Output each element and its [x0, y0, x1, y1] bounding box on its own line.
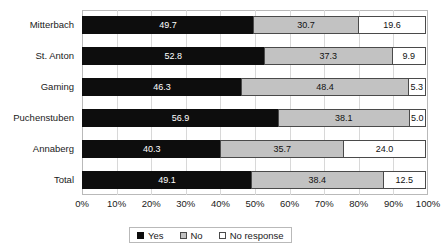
bar-segment-yes: 49.7	[82, 16, 254, 34]
bar-segment-no: 37.3	[264, 47, 393, 65]
bar-row: 56.938.15.0	[82, 109, 428, 127]
x-tick-label: 70%	[315, 198, 334, 210]
bar-row: 49.730.719.6	[82, 16, 428, 34]
bar-segment-yes: 56.9	[82, 109, 279, 127]
bar-segment-no-response: 5.3	[408, 78, 426, 96]
bar-segment-no: 38.4	[251, 171, 384, 189]
category-label-gaming: Gaming	[0, 78, 74, 96]
bar-segment-no-response: 19.6	[358, 16, 426, 34]
bar-segment-yes: 49.1	[82, 171, 252, 189]
legend-swatch-yes-icon	[137, 232, 144, 239]
x-tick-label: 30%	[176, 198, 195, 210]
legend-item-yes[interactable]: Yes	[137, 230, 164, 241]
category-label-total: Total	[0, 171, 74, 189]
legend-item-no-response[interactable]: No response	[219, 230, 284, 241]
legend-label: Yes	[148, 230, 164, 241]
category-label-puchenstuben: Puchenstuben	[0, 109, 74, 127]
category-label-annaberg: Annaberg	[0, 140, 74, 158]
x-tick-label: 90%	[384, 198, 403, 210]
legend-label: No	[191, 230, 203, 241]
x-tick-label: 20%	[142, 198, 161, 210]
bar-row: 49.138.412.5	[82, 171, 428, 189]
legend-item-no[interactable]: No	[180, 230, 203, 241]
bar-segment-no-response: 5.0	[409, 109, 426, 127]
chart-title	[0, 0, 443, 2]
bar-segment-yes: 52.8	[82, 47, 265, 65]
x-tick-label: 10%	[107, 198, 126, 210]
bar-segment-no-response: 24.0	[343, 140, 426, 158]
x-tick-label: 100%	[416, 198, 440, 210]
x-tick-label: 0%	[75, 198, 89, 210]
category-axis-labels: MitterbachSt. AntonGamingPuchenstubenAnn…	[0, 10, 78, 195]
plot-area: 49.730.719.652.837.39.946.348.45.356.938…	[82, 10, 428, 195]
category-label-mitterbach: Mitterbach	[0, 16, 74, 34]
bar-row: 40.335.724.0	[82, 140, 428, 158]
x-tick-label: 60%	[280, 198, 299, 210]
bar-row: 52.837.39.9	[82, 47, 428, 65]
x-tick-label: 80%	[349, 198, 368, 210]
x-tick-label: 50%	[245, 198, 264, 210]
legend-label: No response	[230, 230, 284, 241]
bar-segment-yes: 40.3	[82, 140, 221, 158]
bar-segment-no: 48.4	[241, 78, 408, 96]
bar-rows: 49.730.719.652.837.39.946.348.45.356.938…	[82, 10, 428, 195]
x-tick-label: 40%	[211, 198, 230, 210]
stacked-bar-chart: MitterbachSt. AntonGamingPuchenstubenAnn…	[0, 0, 443, 251]
legend-swatch-no-response-icon	[219, 232, 226, 239]
bar-segment-no-response: 9.9	[392, 47, 426, 65]
bar-segment-no: 30.7	[253, 16, 359, 34]
legend-swatch-no-icon	[180, 232, 187, 239]
bar-segment-no-response: 12.5	[383, 171, 426, 189]
bar-segment-no: 38.1	[278, 109, 410, 127]
bar-segment-no: 35.7	[220, 140, 344, 158]
x-axis-tick-labels: 0%10%20%30%40%50%60%70%80%90%100%	[82, 198, 428, 212]
chart-legend: YesNoNo response	[129, 227, 292, 243]
bar-row: 46.348.45.3	[82, 78, 428, 96]
bar-segment-yes: 46.3	[82, 78, 242, 96]
category-label-st-anton: St. Anton	[0, 47, 74, 65]
